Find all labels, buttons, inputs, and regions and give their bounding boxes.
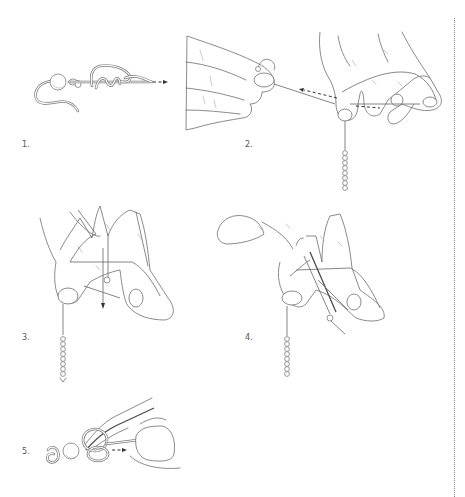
bead bbox=[50, 74, 66, 90]
illustration-canvas bbox=[0, 0, 465, 497]
knot-instructions-figure: 1. 2. 3. 4. 5. bbox=[0, 0, 465, 497]
pull-arrow-left bbox=[299, 88, 304, 92]
step-4-illustration bbox=[217, 214, 384, 376]
step-5-illustration bbox=[47, 398, 180, 469]
bead-chain bbox=[61, 337, 66, 377]
hands-holding-line-icon bbox=[186, 32, 441, 190]
knot-with-bead-icon bbox=[36, 65, 168, 111]
pull-arrow bbox=[163, 80, 168, 84]
step-1-illustration bbox=[36, 65, 168, 111]
bead-chain bbox=[343, 151, 348, 191]
step-2-illustration bbox=[186, 32, 441, 190]
pull-arrow bbox=[122, 448, 127, 452]
bead-chain bbox=[285, 337, 290, 377]
pull-arrow-down bbox=[101, 303, 105, 309]
hands-threading-line-icon bbox=[40, 206, 173, 382]
tweezers-tightening-knot-icon bbox=[47, 398, 180, 469]
step-3-illustration bbox=[40, 206, 173, 382]
hands-pulling-loop-icon bbox=[217, 214, 384, 376]
